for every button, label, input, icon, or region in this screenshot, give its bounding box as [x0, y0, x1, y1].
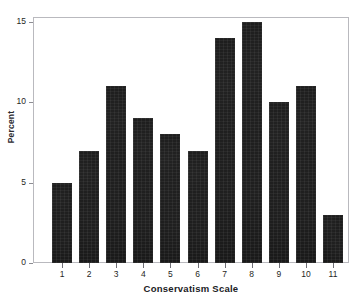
y-tick-mark [29, 263, 33, 264]
chart-title [0, 0, 362, 1]
y-tick-mark [29, 183, 33, 184]
bar-4 [133, 118, 153, 263]
x-tick-label-4: 4 [128, 269, 158, 279]
bar-9 [269, 102, 289, 263]
x-tick-label-7: 7 [210, 269, 240, 279]
x-tick-mark-11 [333, 263, 334, 268]
bar-10 [296, 86, 316, 263]
bar-5 [160, 134, 180, 263]
y-tick-mark [29, 22, 33, 23]
bar-2 [79, 151, 99, 263]
y-tick-label: 15 [17, 16, 26, 26]
x-tick-label-5: 5 [155, 269, 185, 279]
bar-1 [52, 183, 72, 263]
x-tick-label-10: 10 [291, 269, 321, 279]
x-axis-label: Conservatism Scale [33, 283, 349, 294]
y-tick-mark [29, 102, 33, 103]
bar-chart-figure: Percent 051015 1234567891011 Conservatis… [0, 0, 362, 306]
bar-7 [215, 38, 235, 263]
bar-6 [188, 151, 208, 263]
x-tick-mark-4 [143, 263, 144, 268]
x-tick-mark-6 [198, 263, 199, 268]
x-tick-label-11: 11 [318, 269, 348, 279]
x-tick-mark-9 [279, 263, 280, 268]
x-tick-mark-3 [116, 263, 117, 268]
y-tick-label: 5 [21, 177, 26, 187]
x-tick-mark-10 [306, 263, 307, 268]
bar-11 [323, 215, 343, 263]
x-tick-mark-8 [252, 263, 253, 268]
y-tick-label: 10 [17, 96, 26, 106]
y-axis-label: Percent [6, 97, 16, 157]
x-tick-label-8: 8 [237, 269, 267, 279]
y-tick-label: 0 [21, 257, 26, 267]
x-tick-label-1: 1 [47, 269, 77, 279]
x-tick-mark-7 [225, 263, 226, 268]
x-tick-mark-5 [170, 263, 171, 268]
x-tick-mark-1 [62, 263, 63, 268]
x-tick-label-2: 2 [74, 269, 104, 279]
bar-8 [242, 22, 262, 263]
x-tick-label-9: 9 [264, 269, 294, 279]
x-tick-label-3: 3 [101, 269, 131, 279]
x-tick-mark-2 [89, 263, 90, 268]
bar-3 [106, 86, 126, 263]
x-tick-label-6: 6 [183, 269, 213, 279]
